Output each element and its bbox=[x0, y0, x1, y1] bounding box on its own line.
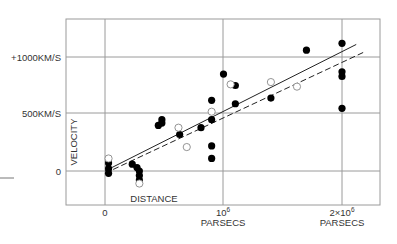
open-circle-point bbox=[227, 81, 234, 88]
filled-circle-point bbox=[158, 116, 165, 123]
x-axis-label: DISTANCE bbox=[130, 193, 177, 204]
x-tick-unit-2e6: PARSECS bbox=[320, 217, 365, 228]
y-axis-label: VELOCITY bbox=[68, 118, 79, 166]
open-circle-point bbox=[136, 180, 143, 187]
y-tick-label-1000: +1000KM/S bbox=[11, 52, 61, 63]
x-tick-2e6-exp: 6 bbox=[351, 206, 355, 213]
x-tick-1e6-exp: 6 bbox=[226, 206, 230, 213]
open-circle-point bbox=[208, 108, 215, 115]
filled-circle-point bbox=[208, 116, 215, 123]
open-circle-point bbox=[175, 124, 182, 131]
x-tick-label-0: 0 bbox=[102, 207, 107, 218]
hubble-velocity-distance-chart: +1000KM/S 500KM/S 0 0 106 PARSECS 2×106 … bbox=[0, 0, 397, 244]
open-circle-point bbox=[105, 155, 112, 162]
filled-circle-point bbox=[303, 47, 310, 54]
y-tick-label-500: 500KM/S bbox=[22, 108, 61, 119]
filled-circle-point bbox=[338, 40, 345, 47]
filled-circle-point bbox=[105, 170, 112, 177]
filled-circle-point bbox=[208, 97, 215, 104]
x-tick-unit-1e6: PARSECS bbox=[201, 217, 246, 228]
solid-fit-line bbox=[105, 44, 356, 171]
filled-circle-point bbox=[232, 100, 239, 107]
dashed-fit-line bbox=[105, 51, 366, 173]
filled-circle-point bbox=[208, 155, 215, 162]
y-tick-label-0: 0 bbox=[56, 166, 61, 177]
open-circle-point bbox=[293, 83, 300, 90]
filled-circle-point bbox=[197, 124, 204, 131]
filled-circle-point bbox=[338, 105, 345, 112]
filled-circle-point bbox=[220, 71, 227, 78]
filled-circle-point bbox=[338, 73, 345, 80]
filled-circle-point bbox=[267, 94, 274, 101]
filled-circle-point bbox=[176, 131, 183, 138]
open-circle-point bbox=[183, 143, 190, 150]
fit-lines bbox=[105, 44, 366, 173]
filled-circle-point bbox=[208, 142, 215, 149]
open-circle-point bbox=[267, 78, 274, 85]
